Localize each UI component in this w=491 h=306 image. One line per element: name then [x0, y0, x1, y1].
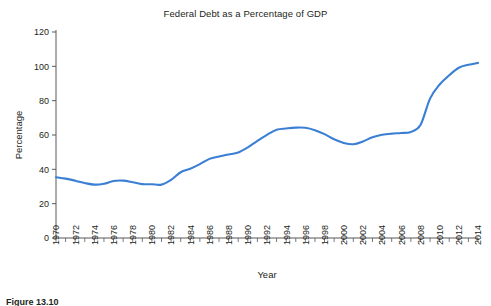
x-tick-label: 2004 — [377, 225, 387, 245]
x-tick-label: 1982 — [166, 225, 176, 245]
x-tick-label: 1980 — [147, 225, 157, 245]
x-tick-label: 2006 — [397, 225, 407, 245]
x-tick-label: 2008 — [416, 225, 426, 245]
x-tick-label: 1990 — [243, 225, 253, 245]
x-tick-label: 2014 — [473, 225, 483, 245]
data-series-line — [56, 63, 478, 185]
x-tick-label: 2002 — [358, 225, 368, 245]
x-tick-label: 1974 — [90, 225, 100, 245]
figure-container: Federal Debt as a Percentage of GDP 0204… — [0, 0, 491, 306]
y-tick-label: 80 — [39, 96, 49, 106]
plot-area: 020406080100120 197019721974197619781980… — [0, 22, 491, 284]
x-tick-label: 2012 — [454, 225, 464, 245]
x-tick-label: 2000 — [339, 225, 349, 245]
y-tick-label: 100 — [34, 62, 49, 72]
x-tick-label: 1970 — [51, 225, 61, 245]
y-tick-label: 60 — [39, 130, 49, 140]
x-tick-label: 1976 — [109, 225, 119, 245]
y-tick-label: 120 — [34, 27, 49, 37]
x-tick-label: 1984 — [186, 225, 196, 245]
x-tick-label: 1994 — [282, 225, 292, 245]
x-tick-label: 1988 — [224, 225, 234, 245]
x-tick-label: 1972 — [71, 225, 81, 245]
line-chart-svg: 020406080100120 197019721974197619781980… — [0, 22, 491, 284]
x-axis: 1970197219741976197819801982198419861988… — [51, 225, 483, 245]
y-axis-title: Percentage — [13, 111, 24, 160]
y-tick-label: 40 — [39, 165, 49, 175]
x-tick-label: 1998 — [320, 225, 330, 245]
x-tick-label: 1978 — [128, 225, 138, 245]
y-axis: 020406080100120 — [34, 27, 56, 243]
figure-caption: Figure 13.10 — [6, 297, 59, 306]
x-axis-title: Year — [257, 269, 276, 280]
y-tick-label: 0 — [44, 233, 49, 243]
chart-title: Federal Debt as a Percentage of GDP — [0, 8, 491, 19]
x-tick-label: 1992 — [262, 225, 272, 245]
x-tick-label: 1996 — [301, 225, 311, 245]
x-tick-label: 1986 — [205, 225, 215, 245]
y-tick-label: 20 — [39, 199, 49, 209]
x-tick-label: 2010 — [435, 225, 445, 245]
